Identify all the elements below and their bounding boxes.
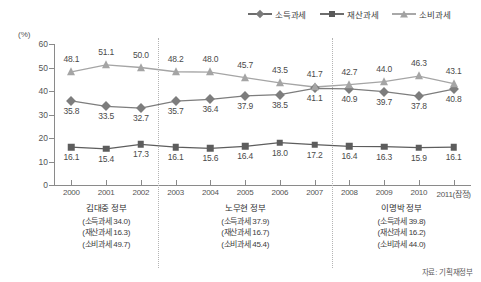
data-point-value-label: 41.1 bbox=[307, 93, 323, 103]
data-point-value-label: 15.4 bbox=[98, 154, 114, 164]
data-point-marker bbox=[242, 143, 249, 150]
data-point-value-label: 45.7 bbox=[237, 60, 253, 70]
annotation-line: (소비과세 45.4) bbox=[175, 239, 315, 251]
data-point-value-label: 43.5 bbox=[272, 65, 288, 75]
data-point-value-label: 44.0 bbox=[376, 64, 392, 74]
data-point-value-label: 16.1 bbox=[168, 152, 184, 162]
data-point-marker bbox=[172, 67, 180, 75]
x-axis-tick bbox=[71, 180, 72, 185]
legend-label-consumption-tax: 소비과세 bbox=[419, 8, 450, 20]
legend-line-property-tax bbox=[320, 13, 344, 15]
x-axis-tick-label: 2002 bbox=[133, 188, 150, 197]
annotation-line: (소득과세 34.0) bbox=[36, 216, 176, 228]
x-axis-tick bbox=[245, 180, 246, 185]
data-point-value-label: 48.1 bbox=[64, 54, 80, 64]
legend-line-consumption-tax bbox=[392, 13, 416, 15]
x-axis-tick-label: 2003 bbox=[167, 188, 184, 197]
data-point-value-label: 48.0 bbox=[203, 54, 219, 64]
data-point-marker bbox=[450, 144, 457, 151]
data-point-marker bbox=[450, 79, 458, 87]
data-point-marker bbox=[137, 63, 145, 71]
legend-item-income-tax[interactable]: 소득과세 bbox=[248, 8, 306, 20]
x-axis-tick-label: 2008 bbox=[341, 188, 358, 197]
y-axis-tick-label: 50 bbox=[20, 63, 48, 73]
data-point-marker bbox=[380, 77, 388, 85]
y-axis-tick-label: 30 bbox=[20, 110, 48, 120]
data-point-marker bbox=[277, 139, 284, 146]
x-axis-tick-label: 2004 bbox=[202, 188, 219, 197]
data-point-value-label: 43.1 bbox=[446, 66, 462, 76]
data-point-value-label: 35.8 bbox=[64, 106, 80, 116]
legend-label-property-tax: 재산과세 bbox=[347, 8, 378, 20]
annotation-line: (소득과세 39.8) bbox=[332, 216, 472, 228]
data-point-value-label: 33.5 bbox=[98, 111, 114, 121]
y-axis-line bbox=[54, 44, 55, 185]
data-point-marker bbox=[206, 67, 214, 75]
legend-line-income-tax bbox=[248, 13, 272, 15]
data-point-value-label: 39.7 bbox=[376, 97, 392, 107]
data-point-value-label: 36.4 bbox=[203, 104, 219, 114]
data-point-value-label: 16.1 bbox=[446, 152, 462, 162]
y-axis-tick bbox=[49, 68, 54, 69]
x-axis-tick-label: 2011(잠정) bbox=[437, 188, 471, 199]
data-point-marker bbox=[66, 96, 76, 106]
x-axis-tick bbox=[454, 180, 455, 185]
data-point-marker bbox=[311, 82, 319, 90]
data-point-value-label: 37.9 bbox=[237, 101, 253, 111]
x-axis-tick bbox=[315, 180, 316, 185]
legend-item-property-tax[interactable]: 재산과세 bbox=[320, 8, 378, 20]
data-point-value-label: 46.3 bbox=[411, 58, 427, 68]
data-point-marker bbox=[276, 78, 284, 86]
x-axis-tick-label: 2007 bbox=[306, 188, 323, 197]
legend-item-consumption-tax[interactable]: 소비과세 bbox=[392, 8, 450, 20]
legend-label-income-tax: 소득과세 bbox=[275, 8, 306, 20]
government-annotation: 이명박 정부(소득과세 39.8)(재산과세 16.2)(소비과세 44.0) bbox=[332, 203, 472, 250]
triangle-marker-icon bbox=[400, 11, 408, 18]
data-point-marker bbox=[275, 90, 285, 100]
x-axis-tick bbox=[106, 180, 107, 185]
data-point-marker bbox=[138, 141, 145, 148]
data-point-marker bbox=[67, 67, 75, 75]
y-axis-tick bbox=[49, 91, 54, 92]
data-point-value-label: 42.7 bbox=[342, 67, 358, 77]
annotation-line: (소득과세 37.9) bbox=[175, 216, 315, 228]
data-point-value-label: 16.4 bbox=[237, 151, 253, 161]
data-point-value-label: 15.9 bbox=[411, 153, 427, 163]
series-line bbox=[71, 88, 453, 108]
x-axis-line bbox=[54, 185, 471, 186]
data-point-value-label: 17.3 bbox=[133, 149, 149, 159]
data-point-value-label: 35.7 bbox=[168, 106, 184, 116]
x-axis-tick bbox=[384, 180, 385, 185]
data-point-value-label: 16.4 bbox=[342, 151, 358, 161]
square-marker-icon bbox=[329, 11, 335, 17]
data-point-marker bbox=[416, 144, 423, 151]
y-axis-unit-label: (%) bbox=[18, 30, 30, 39]
diamond-marker-icon bbox=[256, 10, 264, 18]
data-point-marker bbox=[414, 91, 424, 101]
data-point-value-label: 16.3 bbox=[376, 152, 392, 162]
chart-figure: 소득과세 재산과세 소비과세 (%) 0102030405060 2000200… bbox=[0, 0, 481, 282]
y-axis-tick-label: 60 bbox=[20, 39, 48, 49]
y-axis-tick-label: 10 bbox=[20, 157, 48, 167]
data-point-marker bbox=[241, 73, 249, 81]
y-axis-tick bbox=[49, 185, 54, 186]
data-point-marker bbox=[240, 91, 250, 101]
data-point-marker bbox=[68, 144, 75, 151]
annotation-title: 김대중 정부 bbox=[36, 203, 176, 215]
data-point-value-label: 38.5 bbox=[272, 100, 288, 110]
x-axis-tick bbox=[176, 180, 177, 185]
data-point-marker bbox=[102, 60, 110, 68]
x-axis-tick bbox=[210, 180, 211, 185]
y-axis-tick bbox=[49, 115, 54, 116]
data-point-marker bbox=[136, 103, 146, 113]
x-axis-tick-label: 2009 bbox=[376, 188, 393, 197]
data-point-value-label: 37.8 bbox=[411, 101, 427, 111]
annotation-line: (재산과세 16.3) bbox=[36, 227, 176, 239]
y-axis-tick bbox=[49, 138, 54, 139]
annotation-line: (재산과세 16.7) bbox=[175, 227, 315, 239]
data-point-value-label: 16.1 bbox=[64, 152, 80, 162]
series-line bbox=[71, 143, 453, 149]
data-point-value-label: 17.2 bbox=[307, 150, 323, 160]
data-point-marker bbox=[346, 143, 353, 150]
data-point-marker bbox=[171, 96, 181, 106]
